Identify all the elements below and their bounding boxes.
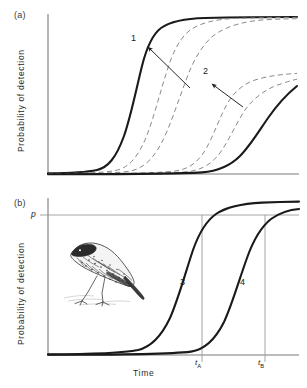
- bird-legs: [75, 276, 109, 306]
- panel-a-plot: [0, 0, 307, 194]
- curve-1-solid: [48, 17, 297, 173]
- curve-2-dashed-b: [48, 79, 297, 174]
- bird-eye: [79, 249, 81, 251]
- curve-2-solid: [48, 86, 297, 174]
- shift-arrow-1: [148, 47, 190, 88]
- curve-2-dashed-a: [48, 73, 297, 174]
- curve-1-dashed-b: [48, 19, 297, 174]
- curve-1-dashed-a: [48, 17, 297, 173]
- foraging-shorebird-illustration: [58, 236, 158, 316]
- bird-ground-shadow: [64, 296, 130, 305]
- figure-container: (a) Probability of detection 1 2 (b) Pro…: [0, 0, 307, 388]
- shift-arrow-2: [212, 84, 243, 107]
- bird-bill: [124, 276, 145, 299]
- bird-body: [71, 243, 145, 299]
